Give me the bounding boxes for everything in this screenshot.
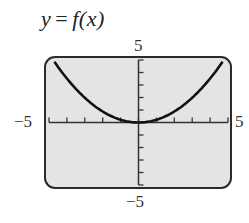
- graph-plot: [0, 0, 249, 223]
- x-min-label: −5: [14, 112, 32, 132]
- y-min-label: −5: [126, 192, 144, 212]
- x-max-label: 5: [235, 112, 244, 132]
- y-max-label: 5: [134, 36, 143, 56]
